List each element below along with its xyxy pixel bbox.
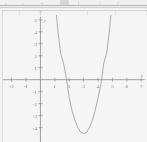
- parabola-curve: [56, 15, 112, 134]
- x-tick-label: 5: [111, 84, 114, 89]
- partial-toolbar: ⌄ ⌐ ¬ | ∕ ∕: [0, 0, 147, 9]
- x-tick-label: 4: [97, 84, 100, 89]
- x-tick-label: 1: [54, 84, 57, 89]
- graph-plot-area: -2-11234567-4-3-2-112345xy: [2, 15, 147, 142]
- y-tick-label: 4: [34, 30, 37, 35]
- screenshot-root: ⌄ ⌐ ¬ | ∕ ∕ T -2-11234567-4-3-2-112345xy: [0, 0, 147, 142]
- y-tick-label: -4: [33, 126, 38, 131]
- y-tick-label: 3: [34, 42, 37, 47]
- y-tick-label: -3: [33, 114, 38, 119]
- y-tick-label: -2: [33, 102, 38, 107]
- toolbar-glyph-2[interactable]: ¬: [40, 0, 43, 6]
- toolbar-glyph-4[interactable]: ∕: [100, 0, 101, 6]
- x-tick-label: 6: [126, 84, 129, 89]
- y-tick-label: 2: [34, 54, 37, 59]
- y-tick-label: -1: [33, 90, 38, 95]
- toolbar-glyph-5[interactable]: ∕: [118, 0, 119, 6]
- x-axis-name: x: [140, 73, 144, 78]
- y-tick-label: 5: [34, 18, 37, 23]
- x-tick-label: 3: [82, 84, 85, 89]
- toolbar-glyph-0[interactable]: ⌄: [4, 0, 8, 6]
- y-tick-label: 1: [34, 66, 37, 71]
- toolbar-glyph-3[interactable]: |: [78, 0, 79, 6]
- toolbar-divider-bottom: [0, 7, 147, 8]
- toolbar-button-chip[interactable]: [60, 0, 69, 5]
- toolbar-glyph-1[interactable]: ⌐: [22, 0, 25, 6]
- x-tick-label: -2: [10, 84, 15, 89]
- x-tick-label: -1: [24, 84, 29, 89]
- y-axis-name: y: [42, 18, 46, 23]
- cartesian-graph: -2-11234567-4-3-2-112345xy: [3, 15, 147, 142]
- x-tick-label: 2: [68, 84, 71, 89]
- x-tick-label: 7: [140, 84, 143, 89]
